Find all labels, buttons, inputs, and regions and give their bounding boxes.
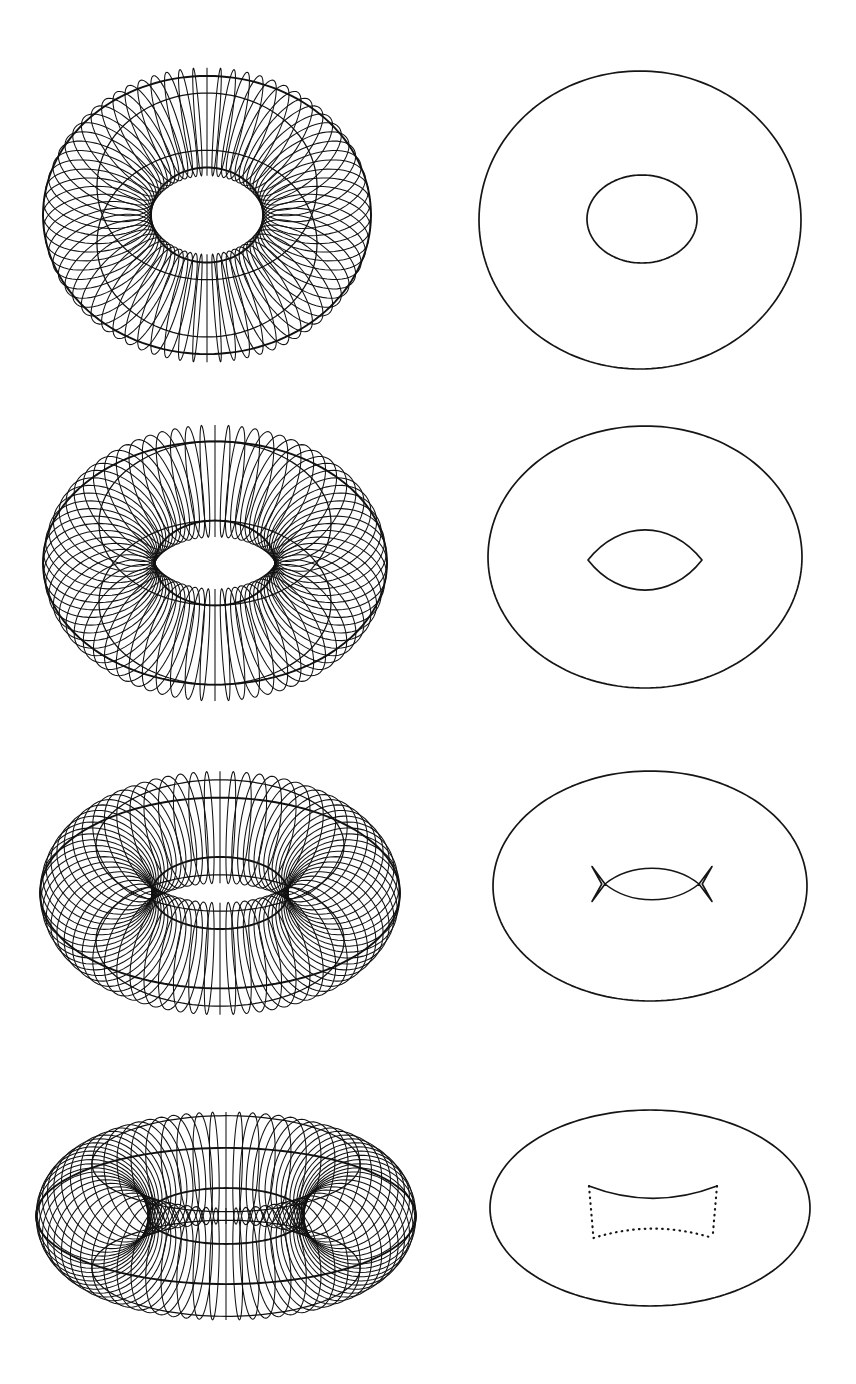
meridian-circle bbox=[204, 903, 214, 1015]
torus-3-contour bbox=[493, 771, 807, 1001]
torus-1-contour bbox=[479, 71, 801, 369]
meridian-circle bbox=[238, 901, 267, 1012]
torus-wireframe-svg-4 bbox=[0, 1070, 428, 1384]
torus-3-mesh bbox=[40, 771, 400, 1014]
torus-1-mesh bbox=[43, 68, 371, 363]
torus-silhouette-svg-4 bbox=[428, 1070, 856, 1384]
parallel-circle bbox=[151, 168, 263, 263]
outer-contour-ellipse bbox=[490, 1110, 810, 1306]
meridian-circle bbox=[173, 901, 202, 1012]
meridian-circle bbox=[204, 772, 214, 884]
torus-wireframe-3 bbox=[0, 740, 428, 1070]
outer-contour-ellipse bbox=[488, 426, 802, 688]
inner-contour-lens bbox=[588, 530, 702, 590]
torus-2-contour bbox=[488, 426, 802, 688]
figure-row-2 bbox=[0, 400, 856, 740]
figure-sheet bbox=[0, 0, 856, 1384]
figure-row-4 bbox=[0, 1070, 856, 1384]
torus-silhouette-svg-1 bbox=[428, 0, 856, 400]
inner-contour-visible-arc bbox=[589, 1186, 717, 1198]
meridian-circle bbox=[209, 1208, 219, 1320]
torus-silhouette-svg-2 bbox=[428, 400, 856, 740]
torus-silhouette-4 bbox=[428, 1070, 856, 1384]
torus-silhouette-svg-3 bbox=[428, 740, 856, 1070]
figure-row-3 bbox=[0, 740, 856, 1070]
torus-silhouette-1 bbox=[428, 0, 856, 400]
outer-contour-ellipse bbox=[479, 71, 801, 369]
inner-contour-swallowtail-lens bbox=[592, 867, 712, 902]
torus-4-mesh bbox=[36, 1112, 416, 1320]
torus-wireframe-4 bbox=[0, 1070, 428, 1384]
torus-wireframe-1 bbox=[0, 0, 428, 400]
torus-wireframe-2 bbox=[0, 400, 428, 740]
meridian-circle bbox=[209, 1112, 219, 1224]
meridian-circle bbox=[226, 772, 236, 884]
meridian-circle bbox=[173, 774, 202, 885]
inner-contour-ellipse bbox=[587, 175, 697, 263]
torus-4-contour bbox=[490, 1110, 810, 1306]
meridian-circle bbox=[233, 1208, 243, 1320]
outer-contour-ellipse bbox=[493, 771, 807, 1001]
torus-2-mesh bbox=[43, 425, 387, 701]
torus-wireframe-svg-3 bbox=[0, 740, 428, 1070]
torus-silhouette-2 bbox=[428, 400, 856, 740]
meridian-circle bbox=[226, 903, 236, 1015]
torus-wireframe-svg-2 bbox=[0, 400, 428, 740]
figure-row-1 bbox=[0, 0, 856, 400]
meridian-circle bbox=[233, 1112, 243, 1224]
inner-contour-hidden-dotted bbox=[589, 1186, 717, 1238]
torus-wireframe-svg-1 bbox=[0, 0, 428, 400]
meridian-circle bbox=[238, 774, 267, 885]
torus-silhouette-3 bbox=[428, 740, 856, 1070]
